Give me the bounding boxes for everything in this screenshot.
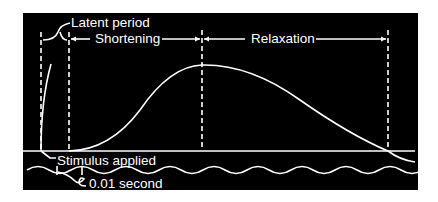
arrowhead: [195, 37, 200, 42]
myogram-graphic: [0, 0, 438, 202]
arrowhead: [204, 37, 209, 42]
label-time-marker: 0.01 second: [89, 177, 163, 191]
arrowhead: [71, 37, 76, 42]
label-latent-period: Latent period: [71, 16, 150, 30]
arrowhead: [381, 37, 386, 42]
label-shortening: Shortening: [95, 32, 160, 46]
label-stimulus-applied: Stimulus applied: [57, 154, 156, 168]
latent-brace: [43, 23, 70, 40]
twitch-curve: [69, 65, 415, 162]
label-relaxation: Relaxation: [251, 32, 315, 46]
stimulus-tick: [41, 151, 56, 158]
stimulus-spike: [41, 64, 51, 151]
